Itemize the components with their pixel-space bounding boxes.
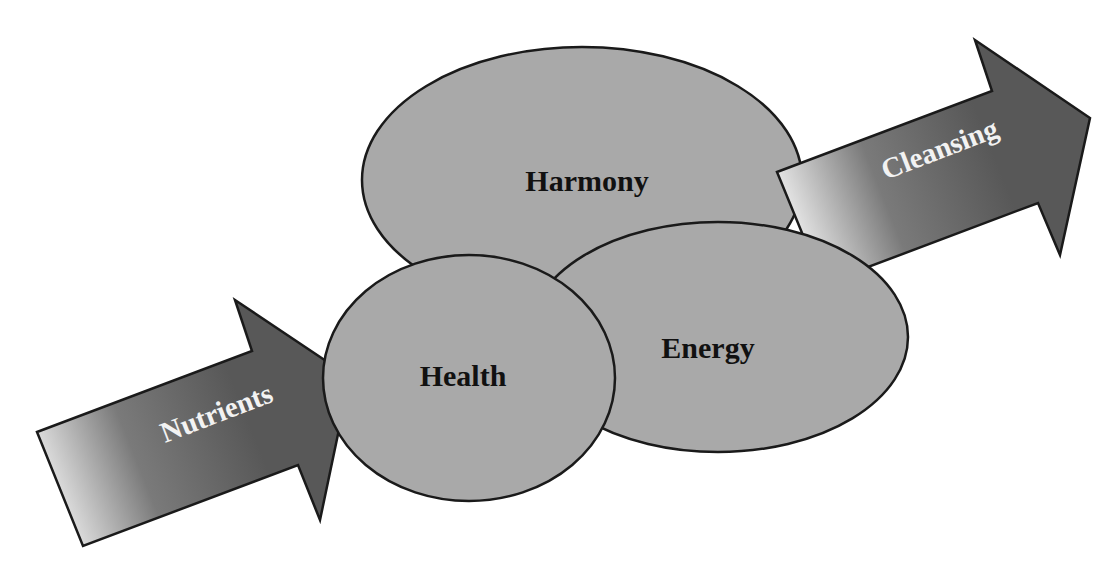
health-label: Health (420, 359, 507, 392)
harmony-label: Harmony (525, 164, 648, 197)
arrow-nutrients: Nutrients (37, 300, 350, 546)
energy-label: Energy (661, 331, 754, 364)
diagram-canvas: Harmony Cleansing Energy Nutrients Healt… (0, 0, 1120, 571)
diagram-svg: Harmony Cleansing Energy Nutrients Healt… (0, 0, 1120, 571)
ellipse-health: Health (323, 255, 615, 501)
